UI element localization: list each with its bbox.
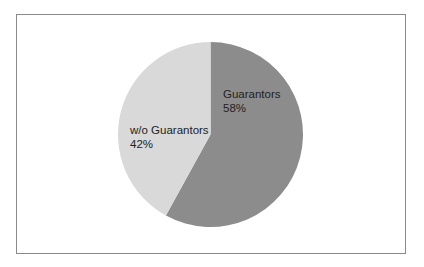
label-name: w/o Guarantors (130, 123, 209, 137)
label-name: Guarantors (223, 87, 281, 101)
data-label-without-guarantors: w/o Guarantors 42% (130, 123, 209, 151)
pie-chart (0, 0, 424, 267)
label-value: 58% (223, 101, 281, 115)
label-value: 42% (130, 137, 209, 151)
data-label-guarantors: Guarantors 58% (223, 87, 281, 115)
